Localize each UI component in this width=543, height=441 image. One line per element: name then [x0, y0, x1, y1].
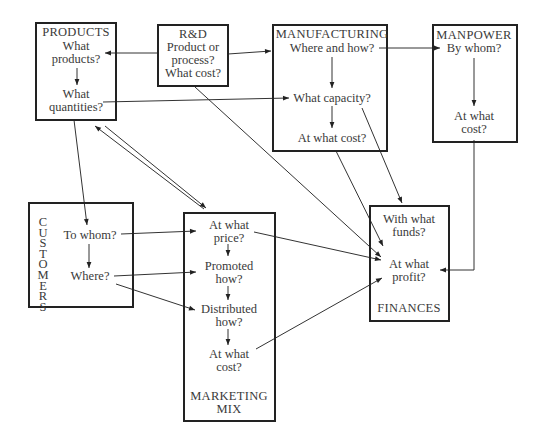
manpower-q-by-whom: By whom?	[447, 42, 502, 55]
products-q-what-products: What products?	[52, 40, 101, 66]
manpower-q-at-what-cost: At what cost?	[454, 110, 494, 136]
arrow-quantities-to-capacity	[103, 98, 289, 102]
marketing-q-distributed-how: Distributed how?	[201, 303, 257, 329]
rnd-q-what-cost: What cost?	[165, 67, 221, 80]
finances-title: FINANCES	[377, 302, 441, 315]
manufacturing-q-at-what-cost: At what cost?	[298, 132, 367, 145]
customers-q-to-whom: To whom?	[64, 229, 117, 242]
marketing-q-promoted-how: Promoted how?	[205, 260, 254, 286]
marketing-q-at-what-price: At what price?	[209, 219, 249, 245]
finances-q-at-what-profit: At what profit?	[389, 258, 429, 284]
manufacturing-q-what-capacity: What capacity?	[293, 92, 370, 105]
manufacturing-title: MANUFACTURING	[276, 28, 389, 41]
arrow-rnd-to-manufacturing	[228, 51, 271, 54]
customers-q-where: Where?	[71, 270, 110, 283]
manufacturing-q-where-how: Where and how?	[290, 42, 375, 55]
rnd-q-product-or-process: Product or process?	[167, 41, 219, 67]
finances-q-with-what-funds: With what funds?	[383, 213, 435, 239]
marketing-mix-title: MARKETING MIX	[190, 390, 268, 416]
products-q-what-quantities: What quantities?	[49, 88, 103, 114]
arrow-marketing-to-products	[95, 126, 204, 209]
marketing-q-at-what-cost: At what cost?	[209, 348, 249, 374]
arrow-products-to-marketing	[105, 126, 206, 208]
products-title: PRODUCTS	[42, 26, 110, 39]
customers-title-vertical: C U S T O M E R S	[37, 217, 49, 312]
